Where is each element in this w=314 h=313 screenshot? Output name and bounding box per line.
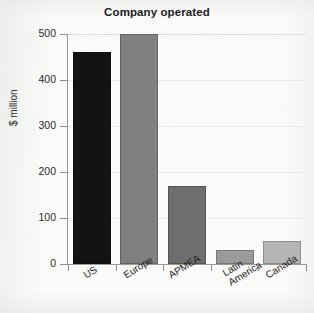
x-axis-tick: [116, 265, 117, 271]
x-axis-tick: [306, 265, 307, 271]
y-axis-tick: [60, 264, 68, 265]
x-axis-label-us: US: [82, 265, 99, 281]
chart-figure: Company operated $ million 0100200300400…: [0, 0, 314, 313]
x-axis-tick: [258, 265, 259, 271]
y-axis-tick-label: 100: [16, 212, 56, 223]
y-axis-tick: [60, 126, 68, 127]
y-axis-tick-label: 300: [16, 120, 56, 131]
y-axis-tick-label: 200: [16, 166, 56, 177]
chart-title: Company operated: [0, 6, 314, 18]
y-axis-line: [67, 34, 68, 265]
gridline: [68, 34, 306, 35]
x-axis-tick: [163, 265, 164, 271]
y-axis-tick: [60, 34, 68, 35]
y-axis-tick-label: 500: [16, 28, 56, 39]
bar-apmea[interactable]: [168, 186, 206, 264]
plot-area: [68, 34, 306, 264]
x-axis-label-line: US: [82, 265, 99, 281]
x-axis-tick: [211, 265, 212, 271]
y-axis-tick: [60, 218, 68, 219]
y-axis-tick: [60, 172, 68, 173]
x-axis-tick: [68, 265, 69, 271]
bar-us[interactable]: [73, 52, 111, 264]
bar-europe[interactable]: [120, 34, 158, 264]
y-axis-tick-label: 400: [16, 74, 56, 85]
y-axis-tick-label: 0: [16, 258, 56, 269]
y-axis-tick: [60, 80, 68, 81]
